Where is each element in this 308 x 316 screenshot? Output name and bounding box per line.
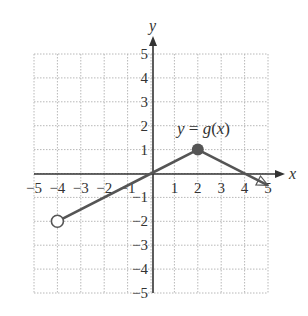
x-tick-label: −4 [49, 180, 65, 196]
x-tick-labels: −5−4−3−2−112345 [26, 180, 272, 196]
curve-line [57, 150, 268, 222]
x-tick-label: −3 [73, 180, 89, 196]
y-tick-label: −4 [132, 261, 148, 277]
y-axis-arrow-icon [149, 36, 157, 46]
x-tick-label: 2 [194, 180, 202, 196]
y-tick-label: −5 [132, 285, 148, 301]
x-axis-arrow-icon [275, 170, 285, 178]
x-axis-label: x [288, 165, 296, 182]
y-tick-label: 1 [141, 142, 149, 158]
filled-endpoint [192, 144, 204, 156]
y-tick-label: 5 [141, 46, 149, 62]
y-tick-label: −3 [132, 237, 148, 253]
y-tick-label: −2 [132, 213, 148, 229]
y-tick-label: 3 [141, 94, 149, 110]
y-axis-label: y [147, 17, 157, 35]
function-label: y = g(x) [175, 119, 230, 138]
x-tick-label: 1 [171, 180, 179, 196]
x-tick-label: 3 [217, 180, 225, 196]
y-tick-label: 4 [141, 70, 149, 86]
axes: x y [34, 17, 296, 293]
graph-of-g: x y −5−4−3−2−112345 54321−1−2−3−4−5 y = … [0, 0, 308, 316]
y-tick-label: 2 [141, 118, 149, 134]
open-endpoint [51, 215, 63, 227]
y-tick-label: −1 [132, 189, 148, 205]
x-tick-label: 4 [241, 180, 249, 196]
x-tick-label: −5 [26, 180, 42, 196]
